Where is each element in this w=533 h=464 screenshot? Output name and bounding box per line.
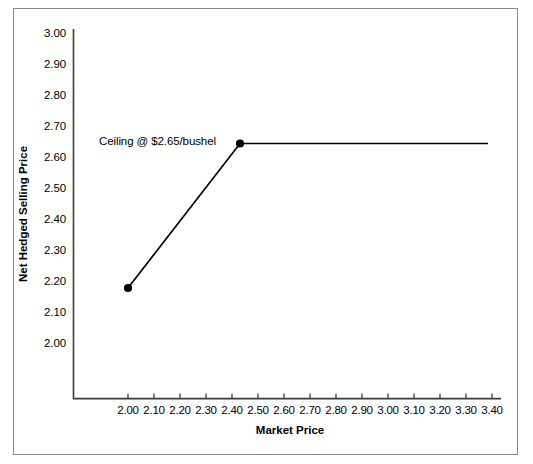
y-tick-label: 2.90 — [20, 58, 66, 70]
chart-figure: 3.00 2.90 2.80 2.70 2.60 2.50 2.40 2.30 … — [0, 0, 533, 464]
y-tick-label: 2.10 — [20, 306, 66, 318]
x-axis-title: Market Price — [200, 424, 380, 436]
y-tick-label: 3.00 — [20, 27, 66, 39]
y-tick-label: 2.00 — [20, 337, 66, 349]
data-point-marker — [124, 284, 132, 292]
y-axis-title: Net Hedged Selling Price — [17, 129, 29, 299]
data-series-line — [128, 144, 488, 289]
y-tick-label: 2.80 — [20, 89, 66, 101]
ceiling-annotation-label: Ceiling @ $2.65/bushel — [99, 135, 216, 147]
plot-canvas — [0, 0, 533, 464]
data-point-marker — [236, 139, 244, 147]
x-tick-label: 3.40 — [475, 404, 509, 416]
